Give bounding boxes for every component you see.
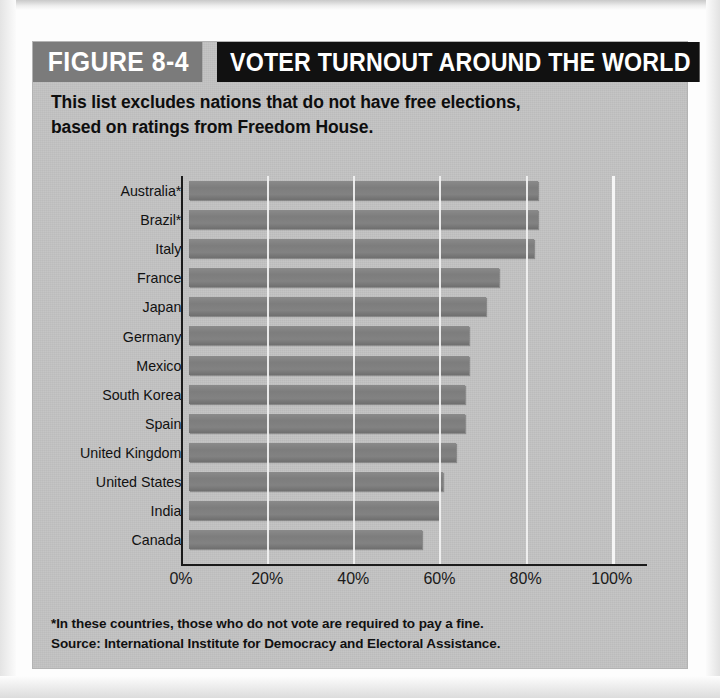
chart-row: Japan xyxy=(33,292,687,321)
chart-row: Spain xyxy=(33,409,687,438)
figure-subtitle: This list excludes nations that do not h… xyxy=(51,90,571,140)
x-tick-label: 100% xyxy=(591,570,632,588)
bar-category-label: Mexico xyxy=(41,357,189,374)
chart-row: South Korea xyxy=(33,380,687,409)
chart-row: Germany xyxy=(33,321,687,350)
chart-row: Brazil* xyxy=(33,205,687,234)
bar-category-label: Italy xyxy=(41,240,189,257)
bar xyxy=(189,239,534,258)
figure-title-bar: FIGURE 8-4 VOTER TURNOUT AROUND THE WORL… xyxy=(33,42,687,82)
bar xyxy=(189,472,443,491)
gridline xyxy=(439,176,441,564)
bar-category-label: Japan xyxy=(41,298,189,315)
x-tick-label: 60% xyxy=(423,570,455,588)
chart-row: United Kingdom xyxy=(33,438,687,467)
chart-plot-area: Australia*Brazil*ItalyFranceJapanGermany… xyxy=(33,176,687,596)
x-tick-label: 20% xyxy=(251,570,283,588)
chart-row: Mexico xyxy=(33,351,687,380)
bar xyxy=(189,181,538,200)
bar-category-label: Australia* xyxy=(41,182,189,199)
page-edge-top xyxy=(0,0,720,10)
gridline xyxy=(353,176,355,564)
chart-row: India xyxy=(33,496,687,525)
bar xyxy=(189,501,439,520)
gridline xyxy=(267,176,269,564)
bar xyxy=(189,297,486,316)
gridline xyxy=(612,176,615,564)
page-edge-left xyxy=(0,0,16,698)
x-tick-label: 40% xyxy=(337,570,369,588)
chart-row: United States xyxy=(33,467,687,496)
bar xyxy=(189,385,465,404)
bar-rows-container: Australia*Brazil*ItalyFranceJapanGermany… xyxy=(33,176,687,564)
bar xyxy=(189,210,538,229)
x-tick-label: 0% xyxy=(169,570,192,588)
bar-category-label: Germany xyxy=(41,328,189,345)
x-tick-label: 80% xyxy=(510,570,542,588)
figure-title-label: VOTER TURNOUT AROUND THE WORLD xyxy=(217,42,700,82)
figure-number-label: FIGURE 8-4 xyxy=(33,42,202,82)
bar-category-label: Brazil* xyxy=(41,211,189,228)
bar-category-label: United Kingdom xyxy=(41,444,189,461)
bar-category-label: France xyxy=(41,269,189,286)
page-edge-right xyxy=(706,0,720,698)
figure-card: FIGURE 8-4 VOTER TURNOUT AROUND THE WORL… xyxy=(33,42,687,668)
page-edge-bottom xyxy=(0,676,720,698)
bar xyxy=(189,530,422,549)
chart-row: Canada xyxy=(33,525,687,554)
scanned-page: FIGURE 8-4 VOTER TURNOUT AROUND THE WORL… xyxy=(0,0,720,698)
gridline xyxy=(526,176,528,564)
footnote-asterisk: *In these countries, those who do not vo… xyxy=(51,614,671,634)
figure-footnotes: *In these countries, those who do not vo… xyxy=(51,614,671,654)
chart-row: France xyxy=(33,263,687,292)
bar xyxy=(189,414,465,433)
bar xyxy=(189,356,469,375)
chart-row: Australia* xyxy=(33,176,687,205)
bar-category-label: Spain xyxy=(41,415,189,432)
chart-row: Italy xyxy=(33,234,687,263)
bar xyxy=(189,326,469,345)
bar-category-label: India xyxy=(41,502,189,519)
bar-category-label: United States xyxy=(41,473,189,490)
source-line: Source: International Institute for Demo… xyxy=(51,634,671,654)
x-axis-tick-labels: 0%20%40%60%80%100% xyxy=(33,570,687,598)
bar-category-label: South Korea xyxy=(41,386,189,403)
x-axis-line xyxy=(181,564,647,566)
y-axis-line xyxy=(181,176,183,566)
bar xyxy=(189,268,499,287)
bar-category-label: Canada xyxy=(41,531,189,548)
bar xyxy=(189,443,456,462)
